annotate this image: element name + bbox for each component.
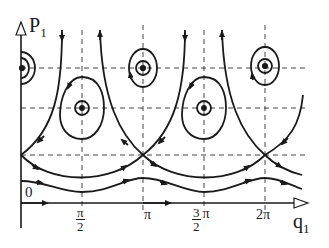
phase-portrait: [0, 0, 329, 248]
tick-coef-numerator: 3: [192, 206, 201, 220]
tick-pi-symbol: π: [203, 207, 210, 220]
origin-label: 0: [25, 184, 33, 201]
tick-pi: π: [144, 207, 151, 223]
tick-coef-denominator: 2: [192, 220, 201, 233]
tick-pi-over-2: π 2: [76, 206, 85, 233]
y-axis-label: P1: [29, 14, 47, 41]
y-label-main: P: [29, 14, 40, 36]
trajectories: [20, 30, 303, 192]
x-label-sub: 1: [303, 221, 310, 236]
y-axis-arrow: [16, 22, 26, 35]
y-label-sub: 1: [40, 25, 47, 40]
axes: [16, 22, 308, 228]
tick-denominator: 2: [76, 220, 85, 233]
x-axis-arrow: [294, 198, 308, 208]
x-label-main: q: [293, 210, 303, 232]
tick-numerator: π: [76, 206, 85, 220]
tick-3pi-over-2: 3 2 π: [192, 206, 210, 233]
tick-2pi: 2π: [256, 207, 270, 223]
x-axis-label: q1: [293, 210, 310, 237]
